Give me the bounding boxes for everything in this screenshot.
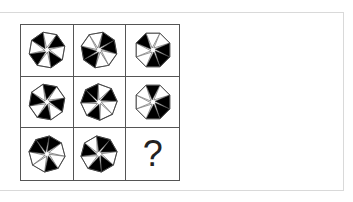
puzzle-cell-r1c3 bbox=[126, 25, 179, 77]
octagon-pinwheel-icon bbox=[27, 82, 67, 122]
puzzle-cell-unknown: ? bbox=[126, 128, 179, 180]
puzzle-grid: ? bbox=[20, 24, 180, 181]
octagon-pinwheel-icon bbox=[133, 30, 173, 70]
puzzle-cell-r1c2 bbox=[74, 25, 127, 77]
octagon-pinwheel-icon bbox=[27, 30, 67, 70]
puzzle-cell-r1c1 bbox=[21, 25, 74, 77]
octagon-pinwheel-icon bbox=[79, 134, 119, 174]
puzzle-cell-r3c1 bbox=[21, 128, 74, 180]
octagon-pinwheel-icon bbox=[27, 134, 67, 174]
puzzle-cell-r3c2 bbox=[74, 128, 127, 180]
puzzle-cell-r2c3 bbox=[126, 77, 179, 129]
octagon-pinwheel-icon bbox=[133, 82, 173, 122]
puzzle-cell-r2c1 bbox=[21, 77, 74, 129]
puzzle-cell-r2c2 bbox=[74, 77, 127, 129]
question-mark: ? bbox=[143, 136, 163, 172]
octagon-pinwheel-icon bbox=[79, 82, 119, 122]
octagon-pinwheel-icon bbox=[79, 30, 119, 70]
